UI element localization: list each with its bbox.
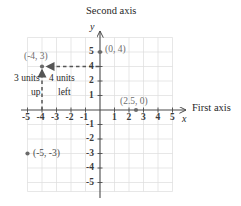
first-axis-title: First axis [192, 103, 231, 114]
y-tick-label--1: -1 [86, 120, 94, 130]
y-tick-label-2: 2 [89, 76, 94, 86]
x-tick-label-3: 3 [141, 113, 146, 123]
x-tick-label--5: -5 [22, 113, 30, 123]
y-tick-label--5: -5 [86, 178, 94, 188]
annotation-3-units: 3 units [14, 74, 40, 84]
x-tick-label--2: -2 [66, 113, 74, 123]
annotation-up: up [31, 88, 41, 98]
annotation-4-units: 4 units [49, 74, 75, 84]
point-2p5-0 [134, 108, 138, 112]
x-tick-label-5: 5 [170, 113, 175, 123]
y-tick-label-5: 5 [89, 47, 94, 57]
x-tick-label--4: -4 [37, 113, 45, 123]
point-label-neg4-3: (-4, 3) [24, 52, 48, 62]
x-axis-variable: x [182, 114, 186, 124]
point-neg5-neg3 [25, 151, 29, 155]
point-label-neg5-neg3: (-5, -3) [33, 149, 60, 159]
x-tick-label--3: -3 [51, 113, 59, 123]
second-axis-title: Second axis [86, 6, 136, 17]
y-tick-label-1: 1 [89, 91, 94, 101]
y-tick-label-4: 4 [89, 62, 94, 72]
coordinate-plane-figure: Second axis y First axis x -5 -4 -3 -2 -… [0, 0, 241, 206]
y-tick-label--4: -4 [86, 163, 94, 173]
point-0-4 [98, 50, 102, 54]
point-neg4-3 [40, 64, 44, 68]
x-tick-label-4: 4 [156, 113, 161, 123]
x-tick-label-1: 1 [112, 113, 117, 123]
annotation-left: left [58, 88, 71, 98]
y-tick-label--2: -2 [86, 134, 94, 144]
point-label-0-4: (0, 4) [105, 45, 126, 55]
y-axis-variable: y [90, 22, 94, 32]
point-label-2p5-0: (2.5, 0) [120, 97, 148, 107]
y-tick-label--3: -3 [86, 149, 94, 159]
x-tick-label-2: 2 [127, 113, 132, 123]
